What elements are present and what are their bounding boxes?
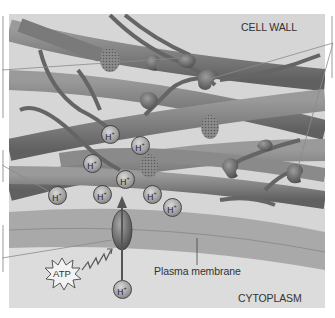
- hydrogen-ion-icon: H+: [48, 186, 67, 205]
- hydrogen-ion-icon: H+: [116, 170, 135, 189]
- hydrogen-ion-icon: H+: [93, 185, 112, 204]
- hydrogen-ion-icon: H+: [113, 280, 132, 299]
- plasma-membrane-label: Plasma membrane: [154, 265, 241, 277]
- atp-label: ATP: [53, 268, 71, 279]
- microfibril-end: [100, 48, 120, 72]
- microfibril-end: [201, 115, 219, 139]
- cell-wall-label: CELL WALL: [241, 21, 297, 33]
- hydrogen-ion-icon: H+: [131, 136, 150, 155]
- hydrogen-ion-icon: H+: [143, 185, 162, 204]
- hydrogen-ion-icon: H+: [83, 154, 102, 173]
- hydrogen-ion-icon: H+: [101, 125, 120, 144]
- cell-wall-acid-growth-diagram: CELL WALL Plasma membrane CYTOPLASM ATP …: [0, 0, 335, 318]
- microfibril-end: [140, 154, 158, 178]
- hydrogen-ion-icon: H+: [163, 198, 182, 217]
- cytoplasm-label: CYTOPLASM: [238, 292, 302, 304]
